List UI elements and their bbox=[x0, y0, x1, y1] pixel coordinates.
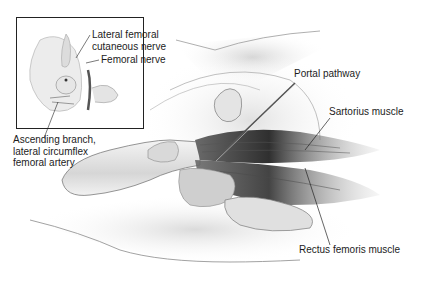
label-ascending-branch-lateral-circumflex-femoral-artery: Ascending branch, lateral circumflex fem… bbox=[13, 134, 96, 169]
label-line: cutaneous nerve bbox=[92, 41, 166, 53]
label-rectus-femoris-muscle: Rectus femoris muscle bbox=[299, 244, 400, 256]
label-line: Ascending branch, bbox=[13, 134, 96, 146]
label-text: Rectus femoris muscle bbox=[299, 244, 400, 255]
label-text: Femoral nerve bbox=[101, 54, 165, 65]
label-lateral-femoral-cutaneous-nerve: Lateral femoral cutaneous nerve bbox=[92, 29, 166, 52]
label-line: femoral artery bbox=[13, 157, 96, 169]
label-text: Portal pathway bbox=[294, 68, 360, 79]
label-line: Lateral femoral bbox=[92, 29, 166, 41]
label-portal-pathway: Portal pathway bbox=[294, 68, 360, 80]
label-femoral-nerve: Femoral nerve bbox=[101, 54, 165, 66]
label-line: lateral circumflex bbox=[13, 146, 96, 158]
label-sartorius-muscle: Sartorius muscle bbox=[329, 106, 403, 118]
label-text: Sartorius muscle bbox=[329, 106, 403, 117]
